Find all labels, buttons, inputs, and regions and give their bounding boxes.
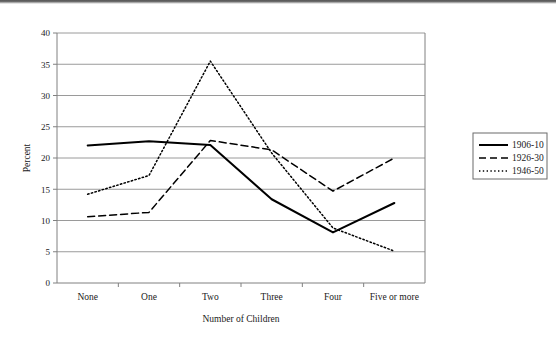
line-chart-figure: 0510152025303540 NoneOneTwoThreeFourFive… xyxy=(0,0,556,339)
y-tick-label: 20 xyxy=(41,153,51,163)
y-tick-label: 35 xyxy=(41,60,51,70)
x-category-label: Five or more xyxy=(370,292,419,302)
y-tick-labels-group: 0510152025303540 xyxy=(41,28,51,288)
x-axis-ticks-group xyxy=(118,283,363,287)
y-tick-label: 15 xyxy=(41,185,51,195)
chart-plot-area: 0510152025303540 NoneOneTwoThreeFourFive… xyxy=(41,28,425,302)
x-category-label: Four xyxy=(324,292,343,302)
x-category-label: Two xyxy=(202,292,219,302)
y-tick-label: 0 xyxy=(46,278,51,288)
x-category-label: Three xyxy=(261,292,283,302)
y-tick-label: 5 xyxy=(46,247,51,257)
y-tick-label: 10 xyxy=(41,216,51,226)
y-tick-label: 40 xyxy=(41,28,51,38)
x-category-label: One xyxy=(141,292,157,302)
legend-label-1926-30: 1926-30 xyxy=(512,153,544,163)
x-category-label: None xyxy=(77,292,98,302)
x-axis-title: Number of Children xyxy=(202,314,279,324)
y-axis-ticks-group xyxy=(53,33,57,283)
y-axis-title: Percent xyxy=(22,143,32,172)
x-category-labels-group: NoneOneTwoThreeFourFive or more xyxy=(77,292,418,302)
legend-label-1946-50: 1946-50 xyxy=(512,166,544,176)
chart-legend: 1906-101926-301946-50 xyxy=(473,133,547,179)
y-tick-label: 25 xyxy=(41,122,51,132)
legend-label-1906-10: 1906-10 xyxy=(512,140,544,150)
y-tick-label: 30 xyxy=(41,91,51,101)
